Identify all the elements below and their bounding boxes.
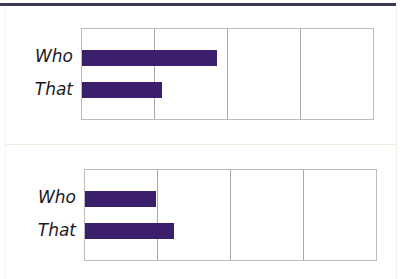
bar-who [82,50,217,66]
top-rule [0,3,396,6]
gridline [227,29,228,119]
bar-who [85,191,156,207]
gridline [154,29,155,119]
panel-divider [5,144,396,145]
gridline [157,170,158,260]
category-label-who: Who [30,187,76,207]
category-label-that: That [27,79,73,99]
category-label-that: That [30,220,76,240]
category-label-who: Who [27,46,73,66]
panel-border-left [5,6,6,279]
gridline [303,170,304,260]
gridline [230,170,231,260]
plot-area [81,28,374,120]
bar-that [85,223,174,239]
bar-that [82,82,162,98]
panel-border-right [396,6,397,279]
gridline [300,29,301,119]
plot-area [84,169,377,261]
